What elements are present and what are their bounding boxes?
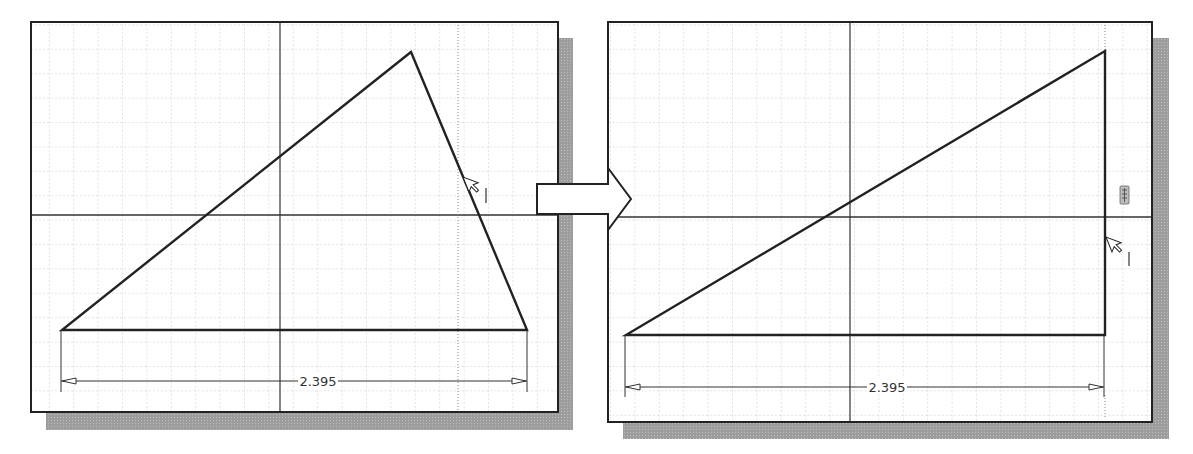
panel-shadow bbox=[623, 422, 1169, 439]
sketch-panel-after: 2.395 bbox=[608, 22, 1169, 439]
sketch-figure: 2.395 2.395 bbox=[0, 0, 1193, 454]
dimension-value[interactable]: 2.395 bbox=[299, 374, 336, 389]
panel-shadow bbox=[1152, 38, 1169, 439]
panel-shadow bbox=[558, 38, 573, 430]
panel-shadow bbox=[46, 412, 573, 430]
vertical-constraint-icon[interactable] bbox=[1120, 186, 1129, 204]
dimension-value[interactable]: 2.395 bbox=[868, 380, 905, 395]
sketch-panel-before: 2.395 bbox=[31, 22, 573, 430]
